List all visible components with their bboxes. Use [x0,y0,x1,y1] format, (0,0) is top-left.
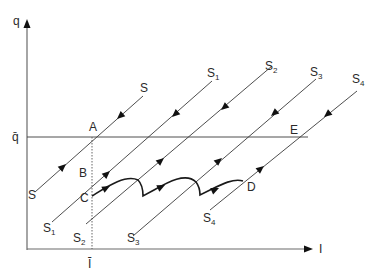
curve-s1-label-lower: S1 [43,221,56,237]
x-axis-label: I [319,242,322,256]
curve-s1-label-upper: S1 [207,66,220,82]
adjustment-path [92,178,243,196]
curve-s4-label-lower: S4 [203,211,216,227]
arrow-up-icon [214,155,225,166]
point-e-label: E [290,123,298,137]
curve-s: S S [28,81,148,202]
point-c-label: C [80,191,89,205]
curve-s-label-upper: S [140,81,148,95]
y-axis-label: q [13,14,20,28]
curve-s3-label-lower: S3 [127,231,140,247]
curve-s2-label-upper: S2 [265,59,278,75]
point-b-label: B [79,166,87,180]
y-axis-arrow-icon [24,19,31,28]
point-a-label: A [89,120,97,134]
i-bar-label: Ī [88,257,92,271]
curve-s-label-lower: S [28,188,36,202]
curve-s1: S1 S1 [43,66,220,237]
curve-s3-label-upper: S3 [310,65,323,81]
phase-diagram: q I q̄ Ī S S S1 S1 S2 S2 S3 S3 [0,0,381,279]
arrow-down-icon [269,108,280,119]
curve-s2: S2 S2 [73,59,278,247]
q-bar-label: q̄ [12,130,19,144]
x-axis-arrow-icon [304,246,313,253]
curve-s3: S3 S3 [127,65,323,247]
curve-s2-label-lower: S2 [73,231,86,247]
curve-s4-label-upper: S4 [352,72,365,88]
curve-s4: S4 S4 [203,72,365,227]
point-d-label: D [247,180,256,194]
